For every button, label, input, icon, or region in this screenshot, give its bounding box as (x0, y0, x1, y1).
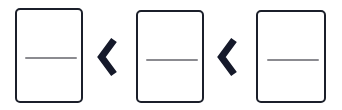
chevron-left-icon[interactable] (97, 37, 118, 77)
card-3-divider-line (267, 59, 319, 61)
card-2[interactable] (136, 10, 204, 103)
diagram-canvas (0, 0, 342, 110)
chevron-left-icon[interactable] (217, 37, 238, 77)
card-1-divider-line (25, 57, 77, 59)
card-1[interactable] (15, 8, 83, 103)
card-2-divider-line (146, 59, 198, 61)
card-3[interactable] (256, 10, 326, 103)
